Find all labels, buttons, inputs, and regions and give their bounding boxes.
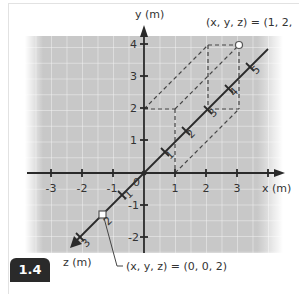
svg-text:3: 3 bbox=[234, 182, 241, 195]
x-axis-label: x (m) bbox=[262, 182, 291, 195]
svg-text:-3: -3 bbox=[46, 182, 57, 195]
point-marker-1-2-neg3 bbox=[236, 42, 243, 49]
grid-background bbox=[25, 36, 283, 253]
point-label-1-2-neg3: (x, y, z) = (1, 2, -3) bbox=[206, 16, 293, 29]
svg-text:4: 4 bbox=[130, 38, 137, 51]
figure-number-badge: 1.4 bbox=[10, 258, 50, 282]
point-label-0-0-2: (x, y, z) = (0, 0, 2) bbox=[126, 260, 227, 273]
origin-dot bbox=[142, 171, 147, 176]
svg-text:1: 1 bbox=[130, 134, 137, 147]
z-axis-label: z (m) bbox=[63, 256, 92, 269]
svg-text:2: 2 bbox=[203, 182, 210, 195]
origin-label: 0 bbox=[133, 176, 140, 189]
svg-text:-2: -2 bbox=[77, 182, 88, 195]
svg-text:2: 2 bbox=[130, 102, 137, 115]
svg-text:3: 3 bbox=[130, 70, 137, 83]
svg-text:-1: -1 bbox=[107, 182, 118, 195]
y-axis-label: y (m) bbox=[135, 8, 164, 21]
svg-text:-2: -2 bbox=[128, 231, 139, 244]
svg-text:1: 1 bbox=[172, 182, 179, 195]
